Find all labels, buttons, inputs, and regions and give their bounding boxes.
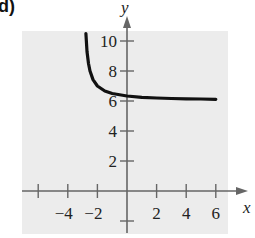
x-tick-label: −2: [84, 204, 102, 223]
x-tick-label: 2: [152, 204, 161, 223]
x-axis-label: x: [242, 198, 251, 217]
chart: xy−4−2246246810: [0, 0, 255, 238]
y-tick-label: 8: [109, 62, 118, 81]
x-tick-label: 4: [182, 204, 191, 223]
y-axis-label: y: [119, 0, 129, 17]
y-tick-label: 10: [100, 32, 117, 51]
y-tick-label: 4: [109, 122, 118, 141]
x-tick-label: −4: [55, 204, 74, 223]
plot-background: [22, 31, 228, 234]
y-tick-label: 2: [109, 152, 118, 171]
y-axis-arrow-icon: [123, 16, 131, 28]
x-tick-label: 6: [212, 204, 221, 223]
x-axis-arrow-icon: [236, 187, 248, 195]
